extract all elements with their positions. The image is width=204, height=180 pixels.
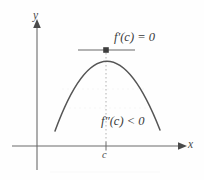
y-axis (33, 19, 41, 170)
critical-point-marker (103, 47, 109, 53)
first-derivative-label: f′(c) = 0 (114, 31, 155, 44)
c-tick-label: c (102, 150, 107, 161)
second-derivative-label: f″(c) < 0 (101, 115, 145, 128)
x-axis-label: x (188, 139, 193, 151)
x-axis-arrowhead (178, 142, 187, 150)
y-axis-label: y (33, 10, 38, 22)
calculus-figure-relative-maximum: f′(c) = 0 f″(c) < 0 y x c (0, 0, 204, 180)
x-axis (12, 142, 187, 150)
